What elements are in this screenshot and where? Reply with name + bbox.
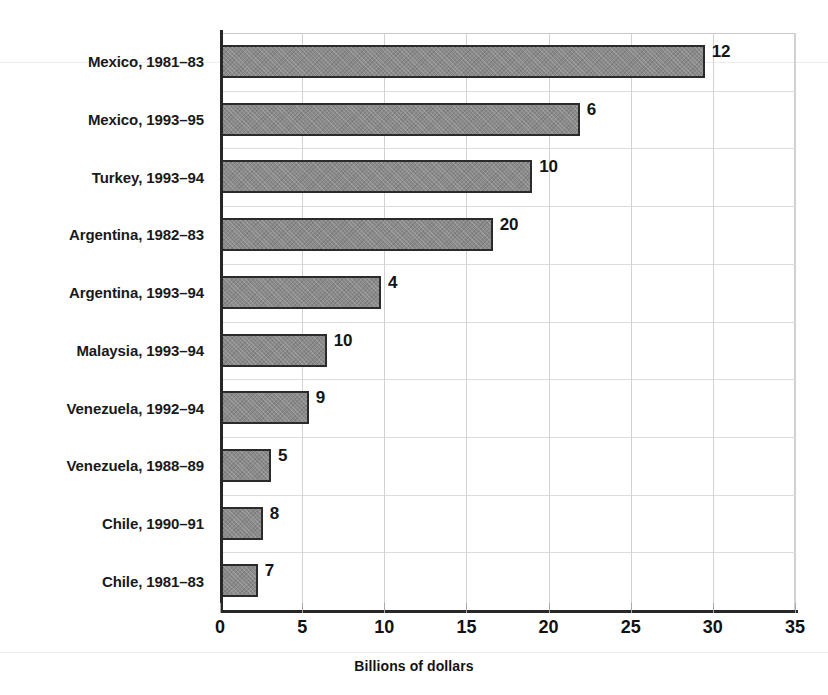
x-axis-tick-label: 25 <box>621 617 641 638</box>
x-axis-tick-mark <box>631 603 632 613</box>
y-axis-category-label: Mexico, 1981–83 <box>88 33 204 91</box>
bar <box>220 449 271 482</box>
bar-row: 9 <box>220 379 795 437</box>
x-axis-tick-label: 35 <box>785 617 805 638</box>
gridline-vertical <box>795 33 796 610</box>
bar-row: 7 <box>220 552 795 610</box>
y-axis-line <box>220 30 223 612</box>
bar-value-label: 5 <box>278 446 287 466</box>
y-axis-labels: Mexico, 1981–83Mexico, 1993–95Turkey, 19… <box>0 33 212 610</box>
x-axis-title: Billions of dollars <box>0 658 828 674</box>
bar-value-label: 8 <box>270 504 279 524</box>
bar <box>220 564 258 597</box>
x-axis-tick-label: 5 <box>297 617 307 638</box>
bar <box>220 276 381 309</box>
x-axis-tick-label: 10 <box>374 617 394 638</box>
y-axis-category-label: Argentina, 1993–94 <box>69 264 204 322</box>
bar-value-label: 20 <box>500 215 519 235</box>
y-axis-category-label: Malaysia, 1993–94 <box>76 322 204 380</box>
y-axis-category-label: Turkey, 1993–94 <box>92 148 204 206</box>
bar-value-label: 10 <box>334 331 353 351</box>
x-axis-tick-label: 20 <box>539 617 559 638</box>
x-axis-tick-label: 30 <box>703 617 723 638</box>
x-axis-tick-mark <box>466 603 467 613</box>
bar-row: 12 <box>220 33 795 91</box>
y-axis-category-label: Venezuela, 1988–89 <box>67 437 204 495</box>
bar <box>220 218 493 251</box>
bar <box>220 334 327 367</box>
x-axis-tick-label: 0 <box>215 617 225 638</box>
scan-streak-line <box>0 652 828 653</box>
x-axis-tick-mark <box>795 603 796 613</box>
bar-row: 4 <box>220 264 795 322</box>
x-axis-tick-mark <box>302 603 303 613</box>
x-axis-tick-mark <box>549 603 550 613</box>
bar <box>220 391 309 424</box>
y-axis-category-label: Chile, 1981–83 <box>102 552 204 610</box>
x-axis-tick-label: 15 <box>456 617 476 638</box>
y-axis-category-label: Mexico, 1993–95 <box>88 91 204 149</box>
clipped-title-artifact <box>0 0 828 3</box>
bar-value-label: 9 <box>316 388 325 408</box>
bar-row: 10 <box>220 322 795 380</box>
bar <box>220 45 705 78</box>
bar-row: 10 <box>220 148 795 206</box>
y-axis-category-label: Venezuela, 1992–94 <box>67 379 204 437</box>
x-axis-tick-mark <box>220 603 221 613</box>
bar-value-label: 7 <box>265 561 274 581</box>
x-axis-ticks: 05101520253035 <box>220 613 795 639</box>
bar-row: 6 <box>220 91 795 149</box>
y-axis-category-label: Chile, 1990–91 <box>102 495 204 553</box>
chart-page: Mexico, 1981–83Mexico, 1993–95Turkey, 19… <box>0 0 828 695</box>
y-axis-category-label: Argentina, 1982–83 <box>69 206 204 264</box>
bar-value-label: 12 <box>712 42 731 62</box>
bar-value-label: 6 <box>587 100 596 120</box>
bar-row: 8 <box>220 495 795 553</box>
bar-value-label: 4 <box>388 273 397 293</box>
bar <box>220 507 263 540</box>
bar-value-label: 10 <box>539 157 558 177</box>
x-axis-tick-mark <box>384 603 385 613</box>
plot-area: 12610204109587 <box>220 33 795 610</box>
x-axis-tick-mark <box>713 603 714 613</box>
bar <box>220 160 532 193</box>
bar-row: 20 <box>220 206 795 264</box>
bar <box>220 103 580 136</box>
bar-row: 5 <box>220 437 795 495</box>
